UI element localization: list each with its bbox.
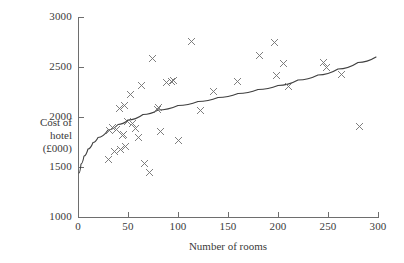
scatter-point (255, 51, 264, 60)
fitted-curve (79, 57, 376, 173)
scatter-point (187, 37, 196, 46)
scatter-point (337, 70, 346, 79)
scatter-point (154, 103, 163, 112)
scatter-point (270, 38, 279, 47)
y-axis-title-line-1: Cost of (0, 116, 72, 129)
scatter-point (128, 119, 137, 128)
x-axis-tick (178, 212, 179, 217)
scatter-point (108, 123, 117, 132)
scatter-point (134, 133, 143, 142)
scatter-point (137, 81, 146, 90)
y-axis-tick (79, 17, 84, 18)
scatter-point (174, 136, 183, 145)
x-axis-tick-label: 200 (258, 221, 298, 232)
x-axis-tick (328, 212, 329, 217)
scatter-point (209, 87, 218, 96)
x-axis-tick (278, 212, 279, 217)
x-axis-title: Number of rooms (78, 240, 378, 252)
y-axis-title: Cost of hotel (£000) (0, 116, 72, 155)
scatter-point (126, 90, 135, 99)
x-axis-line (78, 217, 379, 218)
scatter-point (319, 58, 328, 67)
scatter-point (272, 71, 281, 80)
scatter-point (196, 106, 205, 115)
scatter-point (116, 145, 125, 154)
y-axis-tick-label: 2500 (32, 61, 72, 72)
y-axis-title-line-2: hotel (0, 129, 72, 142)
x-axis-tick-label: 0 (58, 221, 98, 232)
scatter-point (322, 63, 331, 72)
x-axis-tick-label: 300 (358, 221, 398, 232)
scatter-plot-figure: 10001500200025003000 050100150200250300 … (0, 0, 404, 263)
scatter-point (104, 155, 113, 164)
scatter-point (148, 54, 157, 63)
scatter-point (355, 122, 364, 131)
y-axis-tick (79, 67, 84, 68)
x-axis-tick-label: 250 (308, 221, 348, 232)
scatter-point (131, 124, 140, 133)
y-axis-tick-label: 3000 (32, 11, 72, 22)
x-axis-tick-label: 150 (208, 221, 248, 232)
scatter-point (167, 77, 176, 86)
y-axis-tick (79, 217, 84, 218)
scatter-point (284, 82, 293, 91)
y-axis-tick (79, 117, 84, 118)
scatter-point (162, 78, 171, 87)
x-axis-tick (128, 212, 129, 217)
scatter-point (123, 117, 132, 126)
scatter-point (120, 101, 129, 110)
y-axis-tick-label: 1500 (32, 161, 72, 172)
scatter-point (121, 142, 130, 151)
scatter-point (169, 76, 178, 85)
scatter-point (156, 127, 165, 136)
x-axis-tick-label: 100 (158, 221, 198, 232)
x-axis-tick-label: 50 (108, 221, 148, 232)
scatter-point (110, 147, 119, 156)
scatter-point (140, 159, 149, 168)
x-axis-tick (378, 212, 379, 217)
scatter-point (115, 104, 124, 113)
y-axis-tick (79, 167, 84, 168)
scatter-point (153, 105, 162, 114)
scatter-point (119, 130, 128, 139)
x-axis-tick (228, 212, 229, 217)
scatter-point (118, 131, 127, 140)
scatter-point (279, 59, 288, 68)
y-axis-title-line-3: (£000) (0, 142, 72, 155)
scatter-point (105, 126, 114, 135)
scatter-point (145, 168, 154, 177)
scatter-point (112, 125, 121, 134)
scatter-point (233, 77, 242, 86)
